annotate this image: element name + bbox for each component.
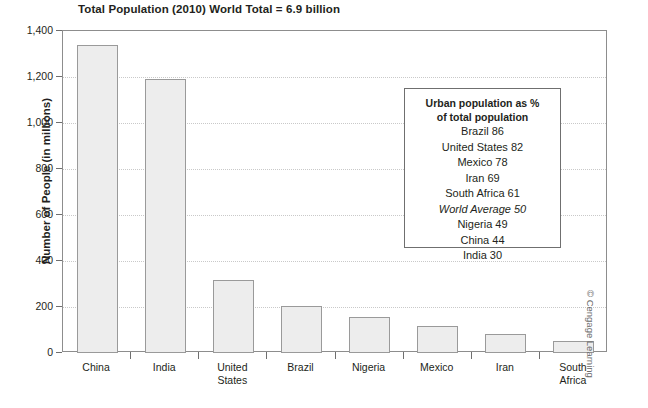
- x-axis-tick-label: Iran: [471, 361, 539, 374]
- bar: [349, 317, 390, 353]
- note-row: India 30: [405, 248, 560, 264]
- x-axis-tick-label: SouthAfrica: [539, 361, 607, 386]
- y-axis-tick-label: 1,000: [1, 117, 53, 127]
- bar: [417, 326, 458, 353]
- y-axis-tick-label: 200: [1, 301, 53, 311]
- gridline: [63, 77, 606, 78]
- x-axis-tick-mark: [130, 352, 131, 359]
- y-axis-tick-label: 0: [1, 347, 53, 357]
- y-axis-tick-label: 400: [1, 255, 53, 265]
- x-axis-tick-label: Brazil: [266, 361, 334, 374]
- y-axis-tick-label: 1,200: [1, 71, 53, 81]
- y-axis-tick-mark: [56, 352, 62, 353]
- note-row: Nigeria 49: [405, 217, 560, 233]
- note-heading-line-2: of total population: [405, 110, 560, 124]
- note-row: Iran 69: [405, 171, 560, 187]
- x-axis-tick-label: India: [130, 361, 198, 374]
- x-axis-tick-mark: [266, 352, 267, 359]
- x-axis-tick-label: China: [62, 361, 130, 374]
- x-axis-tick-mark: [198, 352, 199, 359]
- note-row: Mexico 78: [405, 155, 560, 171]
- x-axis-tick-mark: [335, 352, 336, 359]
- bar: [145, 79, 186, 353]
- bar: [281, 306, 322, 353]
- chart-title: Total Population (2010) World Total = 6.…: [78, 3, 340, 15]
- x-axis-tick-label: UnitedStates: [198, 361, 266, 386]
- note-rows: Brazil 86United States 82Mexico 78Iran 6…: [405, 124, 560, 264]
- x-axis-tick-label: Mexico: [403, 361, 471, 374]
- note-heading-line-1: Urban population as %: [405, 96, 560, 110]
- note-row: World Average 50: [405, 202, 560, 218]
- x-axis-tick-mark: [471, 352, 472, 359]
- y-axis-tick-label: 800: [1, 163, 53, 173]
- note-row: United States 82: [405, 140, 560, 156]
- note-row: Brazil 86: [405, 124, 560, 140]
- note-row: China 44: [405, 233, 560, 249]
- x-axis-tick-mark: [403, 352, 404, 359]
- bar: [485, 334, 526, 353]
- y-axis-tick-label: 1,400: [1, 25, 53, 35]
- x-axis-tick-label: Nigeria: [335, 361, 403, 374]
- x-axis-tick-mark: [539, 352, 540, 359]
- population-bar-chart: Total Population (2010) World Total = 6.…: [0, 0, 648, 408]
- urban-population-note-box: Urban population as % of total populatio…: [404, 88, 561, 248]
- copyright-credit: © Cengage Learning: [585, 290, 596, 408]
- bar: [77, 45, 118, 353]
- bar: [213, 280, 254, 353]
- note-row: South Africa 61: [405, 186, 560, 202]
- y-axis-tick-label: 600: [1, 209, 53, 219]
